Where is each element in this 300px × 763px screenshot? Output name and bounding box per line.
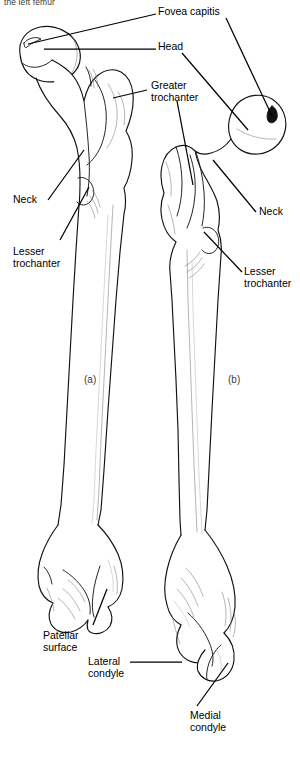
femur-anterior-panel	[20, 26, 133, 633]
label-lesser-trochanter-anterior: Lesser trochanter	[13, 246, 60, 269]
label-lateral-condyle: Lateral condyle	[88, 656, 124, 679]
femur-b-greater-trochanter	[161, 146, 195, 535]
femur-posterior-panel	[161, 95, 286, 681]
femur-a-distal-right-flare	[98, 525, 123, 607]
femur-a-medial-condyle	[87, 607, 112, 634]
panel-letter-b: (b)	[228, 374, 240, 385]
femur-b-popliteal-shade-1	[186, 568, 203, 596]
label-fovea-capitis: Fovea capitis	[158, 6, 220, 18]
femur-b-distal-right-flare	[205, 530, 235, 633]
femur-a-shaft-left-edge	[36, 78, 80, 525]
femur-b-distal-left-flare	[165, 535, 181, 625]
panel-letter-a: (a)	[84, 374, 96, 385]
label-greater-trochanter: Greater trochanter	[151, 80, 198, 103]
femur-b-lesser-troch-hatch-3	[189, 264, 204, 278]
femur-b-linea-aspera-2	[192, 260, 202, 534]
label-medial-condyle: Medial condyle	[190, 710, 226, 733]
label-head: Head	[158, 41, 183, 53]
femur-a-patellar-shade-2	[63, 589, 80, 611]
femur-b-popliteal-shade-2	[181, 578, 198, 606]
femur-b-lesser-trochanter	[202, 227, 219, 253]
label-neck-posterior: Neck	[259, 206, 283, 218]
femur-b-proximal-body	[195, 139, 231, 530]
femur-a-patellar-shade-1	[68, 580, 85, 602]
femur-a-distal-left-flare	[38, 525, 58, 603]
label-patellar-surface: Patellar surface	[43, 630, 79, 653]
femur-figure: the left femur	[0, 0, 300, 763]
femur-b-head	[229, 95, 286, 154]
label-lesser-trochanter-posterior: Lesser trochanter	[244, 266, 291, 289]
label-neck-anterior: Neck	[13, 194, 37, 206]
